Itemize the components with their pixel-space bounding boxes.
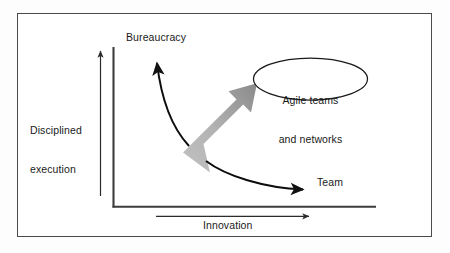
node-label-agile-line2: and networks <box>263 133 358 146</box>
y-axis-label-line2: execution <box>30 163 82 176</box>
node-label-agile-line1: Agile teams <box>263 94 358 107</box>
node-label-agile: Agile teams and networks <box>263 68 358 172</box>
diagram-canvas: Disciplined execution Bureaucracy Team I… <box>0 0 450 253</box>
node-label-bureaucracy: Bureaucracy <box>126 31 186 44</box>
x-axis-label: Innovation <box>203 219 252 232</box>
y-axis-label: Disciplined execution <box>30 98 82 202</box>
node-label-team: Team <box>317 176 343 189</box>
y-axis-label-line1: Disciplined <box>30 124 82 137</box>
